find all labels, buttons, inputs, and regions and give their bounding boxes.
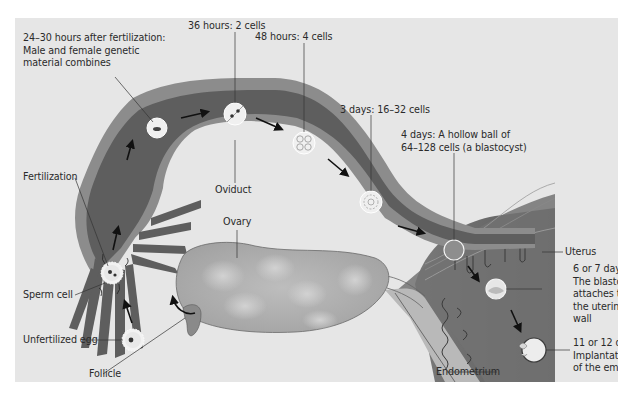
stage-label-48-hours: 48 hours: 4 cells — [255, 31, 332, 44]
stage-label-24-30-hours: 24–30 hours after fertilization: Male an… — [23, 32, 165, 70]
diagram-panel: 24–30 hours after fertilization: Male an… — [15, 18, 618, 382]
reproductive-tract-illustration — [15, 18, 618, 382]
stage-label-4-days: 4 days: A hollow ball of 64–128 cells (a… — [401, 129, 527, 154]
follicle — [183, 305, 201, 336]
label-fertilization: Fertilization — [23, 171, 78, 184]
stage-label-3-days: 3 days: 16–32 cells — [340, 104, 430, 117]
stage-label-11-12-days: 11 or 12 days: Implantation of the embry… — [573, 337, 618, 375]
label-oviduct: Oviduct — [215, 184, 251, 197]
stage-label-36-hours: 36 hours: 2 cells — [188, 20, 265, 33]
label-uterus: Uterus — [565, 246, 596, 259]
label-ovary: Ovary — [223, 216, 251, 229]
label-endometrium: Endometrium — [436, 366, 500, 379]
label-sperm-cell: Sperm cell — [23, 289, 73, 302]
label-follicle: Follicle — [89, 368, 121, 381]
label-unfertilized-egg: Unfertilized egg — [23, 334, 98, 347]
implanted-embryo-icon — [522, 338, 546, 362]
ovary — [176, 242, 389, 332]
blastocyst-icon — [444, 240, 464, 260]
stage-label-6-7-days: 6 or 7 days: The blastocyst attaches to … — [573, 263, 618, 326]
four-cell-icon — [293, 132, 315, 154]
morula-icon — [360, 191, 382, 213]
